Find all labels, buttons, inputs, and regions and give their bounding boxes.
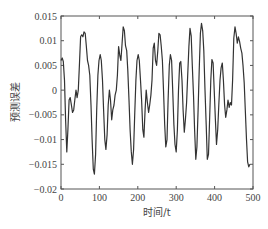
y-tick-labels: 0.0150.010.0050−0.005−0.01−0.015−0.02 bbox=[29, 11, 57, 195]
y-tick-label: 0.015 bbox=[35, 11, 58, 22]
x-tick-labels: 0100200300400500 bbox=[59, 192, 261, 203]
x-tick-label: 100 bbox=[92, 192, 107, 203]
y-tick-label: −0.02 bbox=[34, 184, 57, 195]
x-axis-label: 时间/t bbox=[143, 206, 170, 218]
x-tick-label: 300 bbox=[169, 192, 184, 203]
y-tick-label: −0.015 bbox=[29, 159, 57, 170]
line-chart: 0100200300400500 0.0150.010.0050−0.005−0… bbox=[0, 0, 268, 229]
x-tick-label: 500 bbox=[246, 192, 261, 203]
y-tick-label: 0.005 bbox=[35, 60, 58, 71]
x-tick-label: 400 bbox=[207, 192, 222, 203]
y-tick-label: −0.005 bbox=[29, 109, 57, 120]
y-tick-label: −0.01 bbox=[34, 134, 57, 145]
y-axis-label: 预测误差 bbox=[9, 82, 21, 122]
y-tick-label: 0 bbox=[52, 85, 57, 96]
x-tick-label: 0 bbox=[59, 192, 64, 203]
y-tick-label: 0.01 bbox=[40, 35, 58, 46]
x-tick-label: 200 bbox=[130, 192, 145, 203]
prediction-error-line bbox=[61, 23, 250, 174]
